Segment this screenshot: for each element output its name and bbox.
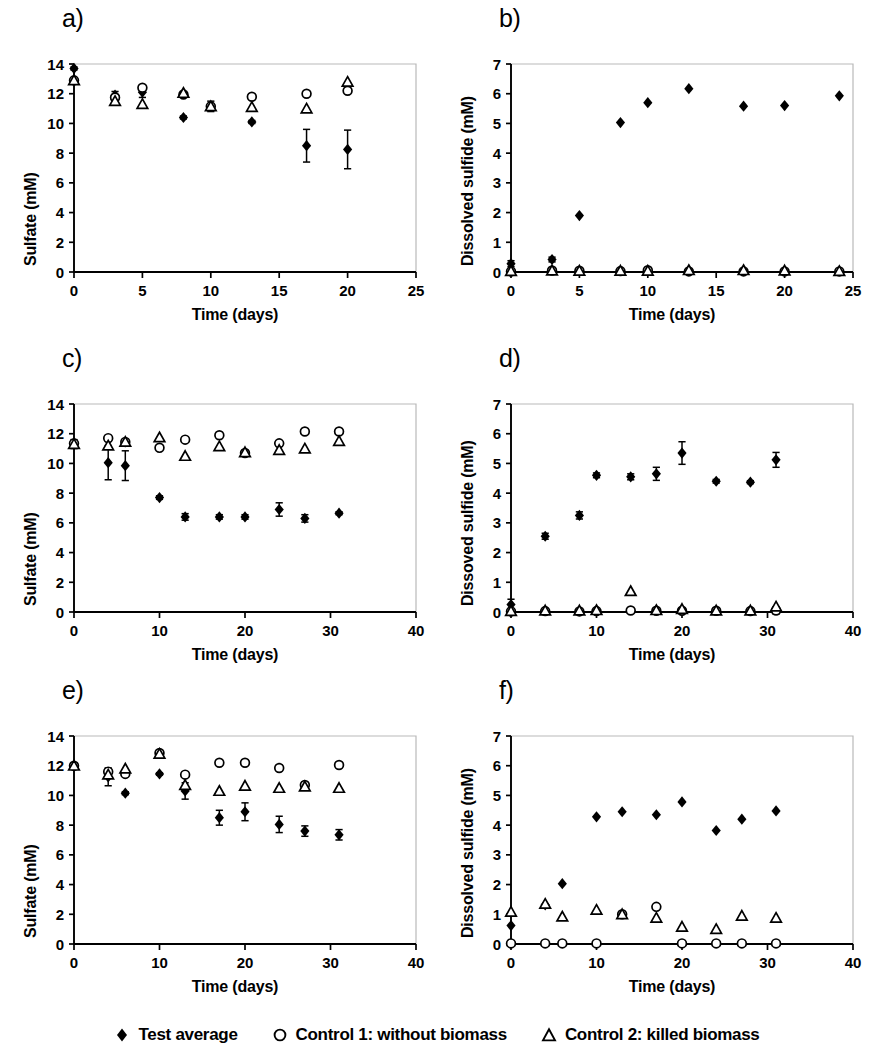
data-point-open-triangle (771, 913, 782, 922)
series-filled-diamond (69, 63, 352, 169)
data-point-open-triangle (180, 780, 191, 789)
y-tick-label: 6 (56, 846, 64, 863)
series-open-circle (507, 902, 781, 947)
data-point-open-triangle (301, 103, 312, 112)
data-point-filled-diamond (616, 117, 625, 128)
data-point-filled-diamond (771, 454, 780, 465)
x-tick-label: 10 (151, 954, 168, 971)
y-axis-title: Sulfate (mM) (22, 844, 40, 938)
x-tick-label: 25 (845, 282, 862, 299)
data-point-filled-diamond (506, 920, 515, 931)
y-tick-label: 10 (47, 455, 64, 472)
y-tick-label: 4 (56, 544, 65, 561)
legend-item-test-average: Test average (114, 1025, 237, 1045)
plot-area-a: 024681012140510152025 (0, 0, 437, 340)
data-point-filled-diamond (592, 811, 601, 822)
x-tick-label: 20 (339, 282, 356, 299)
data-point-filled-diamond (215, 812, 224, 823)
data-point-filled-diamond (275, 504, 284, 515)
x-tick-label: 10 (202, 282, 219, 299)
data-point-open-triangle (557, 911, 568, 920)
x-tick-label: 25 (408, 282, 425, 299)
data-point-filled-diamond (334, 508, 343, 519)
y-tick-label: 1 (493, 906, 501, 923)
data-point-filled-diamond (155, 492, 164, 503)
data-point-filled-diamond (300, 825, 309, 836)
x-tick-label: 10 (151, 622, 168, 639)
y-axis-title: Dissolved sulfide (mM) (459, 96, 477, 266)
data-point-open-triangle (540, 899, 551, 908)
y-tick-label: 12 (47, 425, 64, 442)
data-point-filled-diamond (835, 90, 844, 101)
y-tick-label: 8 (56, 817, 64, 834)
data-point-filled-diamond (618, 806, 627, 817)
y-tick-label: 7 (493, 728, 501, 745)
plot-area-f: 01234567010203040 (437, 672, 874, 1012)
data-point-open-circle (215, 431, 224, 440)
y-tick-label: 5 (493, 787, 501, 804)
panel-b: b) 012345670510152025Dissolved sulfide (… (437, 0, 874, 340)
x-tick-label: 0 (507, 954, 515, 971)
plot-area-c: 02468101214010203040 (0, 340, 437, 680)
plot-area-b: 012345670510152025 (437, 0, 874, 340)
y-tick-label: 0 (56, 936, 64, 953)
y-axis-title: Sulfate (mM) (22, 512, 40, 606)
data-point-filled-diamond (334, 829, 343, 840)
y-tick-label: 4 (493, 145, 502, 162)
series-open-triangle (69, 749, 345, 796)
data-point-filled-diamond (121, 460, 130, 471)
y-tick-label: 4 (493, 817, 502, 834)
y-tick-label: 0 (56, 264, 64, 281)
series-filled-diamond (506, 83, 844, 269)
data-point-open-triangle (625, 586, 636, 595)
x-tick-label: 20 (237, 622, 254, 639)
data-point-open-triangle (342, 77, 353, 86)
data-point-filled-diamond (652, 468, 661, 479)
data-point-open-triangle (711, 924, 722, 933)
x-tick-label: 30 (322, 622, 339, 639)
y-tick-label: 7 (493, 56, 501, 73)
data-point-filled-diamond (739, 101, 748, 112)
data-point-filled-diamond (677, 796, 686, 807)
y-tick-label: 6 (493, 425, 501, 442)
data-point-open-circle (652, 902, 661, 911)
y-tick-label: 14 (47, 56, 64, 73)
series-filled-diamond (506, 442, 780, 610)
data-point-open-triangle (240, 781, 251, 790)
data-point-open-circle (241, 758, 250, 767)
open-triangle-icon (541, 1027, 557, 1043)
x-axis-title: Time (days) (437, 646, 843, 664)
data-point-filled-diamond (652, 809, 661, 820)
data-point-open-circle (592, 939, 601, 948)
y-tick-label: 5 (493, 455, 501, 472)
legend-label-control-2: Control 2: killed biomass (565, 1025, 760, 1045)
data-point-open-circle (343, 86, 352, 95)
data-point-open-circle (772, 939, 781, 948)
data-point-filled-diamond (179, 112, 188, 123)
data-point-open-circle (247, 92, 256, 101)
x-tick-label: 0 (70, 954, 78, 971)
x-tick-label: 20 (674, 622, 691, 639)
legend-item-control-2: Control 2: killed biomass (541, 1025, 760, 1045)
data-point-open-triangle (771, 601, 782, 610)
data-point-filled-diamond (240, 806, 249, 817)
x-tick-label: 20 (674, 954, 691, 971)
legend-label-control-1: Control 1: without biomass (296, 1025, 507, 1045)
data-point-open-circle (181, 435, 190, 444)
plot-area-e: 02468101214010203040 (0, 672, 437, 1012)
y-tick-label: 12 (47, 757, 64, 774)
data-point-filled-diamond (343, 144, 352, 155)
data-point-open-triangle (737, 911, 748, 920)
data-point-open-circle (541, 939, 550, 948)
y-tick-label: 6 (56, 174, 64, 191)
data-point-open-circle (155, 443, 164, 452)
filled-diamond-icon (114, 1027, 130, 1043)
panel-c: c) 02468101214010203040Sulfate (mM)Time … (0, 340, 437, 680)
data-point-filled-diamond (575, 210, 584, 221)
series-open-triangle (506, 899, 782, 934)
x-tick-label: 0 (70, 282, 78, 299)
y-tick-label: 1 (493, 574, 501, 591)
data-point-filled-diamond (737, 814, 746, 825)
x-tick-label: 20 (776, 282, 793, 299)
x-tick-label: 10 (588, 954, 605, 971)
